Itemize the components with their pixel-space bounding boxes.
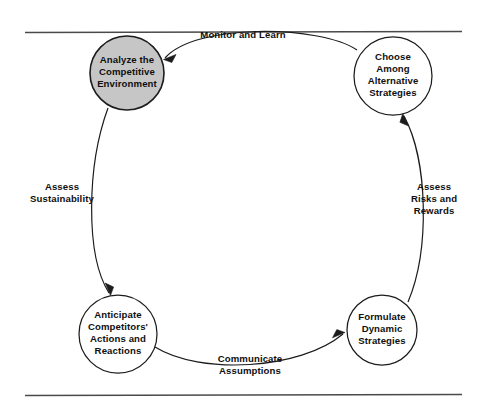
- node-formulate-label-line-1: Formulate: [358, 311, 405, 322]
- node-choose-label-line-4: Strategies: [369, 87, 416, 98]
- edge-label-communicate-assumptions-line-1: Communicate: [218, 353, 283, 364]
- edge-label-communicate-assumptions-line-2: Assumptions: [219, 365, 281, 376]
- arrow-head-monitor-and-learn: [164, 55, 177, 63]
- node-choose-label-line-1: Choose: [375, 51, 411, 62]
- node-anticipate-label-line-4: Reactions: [95, 345, 142, 356]
- node-analyze-label-line-3: Environment: [97, 78, 157, 89]
- node-choose-label-line-3: Alternative: [368, 75, 419, 86]
- edge-path-assess-sustainability: [92, 108, 109, 293]
- diagram-canvas: Analyze the Competitive Environment Choo…: [0, 0, 484, 414]
- edge-label-assess-sustainability-line-1: Assess: [45, 181, 79, 192]
- node-analyze[interactable]: Analyze the Competitive Environment: [90, 36, 164, 110]
- arrow-head-assess-risks-and-rewards: [400, 114, 409, 127]
- edge-label-assess-sustainability: Assess Sustainability: [30, 181, 94, 204]
- edge-label-assess-risks-and-rewards: Assess Risks and Rewards: [411, 181, 457, 216]
- node-formulate-label-line-2: Dynamic: [362, 323, 403, 334]
- edge-label-communicate-assumptions: Communicate Assumptions: [218, 353, 283, 376]
- edge-label-assess-risks-and-rewards-line-1: Assess: [417, 181, 451, 192]
- node-analyze-label-line-2: Competitive: [99, 66, 155, 77]
- cycle-diagram-figure: Analyze the Competitive Environment Choo…: [0, 0, 484, 414]
- node-anticipate-label-line-1: Anticipate: [94, 309, 141, 320]
- node-formulate[interactable]: Formulate Dynamic Strategies: [347, 295, 417, 365]
- node-formulate-label-line-3: Strategies: [358, 335, 405, 346]
- node-choose[interactable]: Choose Among Alternative Strategies: [354, 37, 432, 115]
- edge-label-assess-risks-and-rewards-line-2: Risks and: [411, 193, 457, 204]
- edge-label-assess-sustainability-line-2: Sustainability: [30, 193, 94, 204]
- node-analyze-label-line-1: Analyze the: [100, 54, 154, 65]
- node-anticipate-label-line-2: Competitors': [88, 321, 148, 332]
- node-choose-label-line-2: Among: [376, 63, 410, 74]
- edge-label-monitor-and-learn: Monitor and Learn: [200, 29, 285, 40]
- bottom-horizontal-rule: [25, 395, 462, 396]
- arrow-head-communicate-assumptions: [333, 330, 346, 338]
- node-anticipate[interactable]: Anticipate Competitors' Actions and Reac…: [79, 295, 157, 373]
- edge-label-monitor-and-learn-line-1: Monitor and Learn: [200, 29, 285, 40]
- edge-label-assess-risks-and-rewards-line-3: Rewards: [414, 205, 455, 216]
- node-anticipate-label-line-3: Actions and: [90, 333, 146, 344]
